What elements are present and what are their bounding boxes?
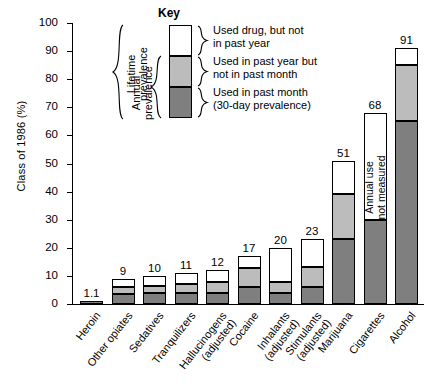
segment-past-month (143, 293, 166, 304)
segment-not-past-year (301, 239, 324, 267)
segment-past-month (112, 294, 135, 304)
x-label-line1: Alcohol (386, 309, 418, 345)
y-axis-title: Class of 1986 (%) (15, 81, 27, 211)
segment-past-year-not-month (395, 65, 418, 121)
segment-past-year-not-month (206, 282, 229, 293)
bar-tranquilizers: 11 (175, 273, 198, 304)
bar-stimulants: 23 (301, 239, 324, 304)
segment-not-past-year (206, 270, 229, 281)
y-tick-20: 20 (67, 248, 72, 249)
y-tick-50: 50 (67, 164, 72, 165)
segment-past-month (269, 293, 292, 304)
y-tick-label: 70 (32, 100, 58, 112)
segment-not-past-year (112, 279, 135, 288)
y-tick-90: 90 (67, 51, 72, 52)
bar-value-label: 10 (148, 262, 161, 274)
bar-value-label: 12 (211, 256, 224, 268)
segment-not-past-year (332, 161, 355, 195)
y-tick-label: 60 (32, 128, 58, 140)
segment-not-past-year (175, 273, 198, 284)
y-tick-label: 0 (32, 297, 58, 309)
segment-past-year-not-month (238, 268, 261, 287)
bar-value-label: 1.1 (84, 287, 100, 299)
segment-not-past-year (395, 48, 418, 65)
plot-area: 100 90 80 70 60 50 40 30 20 10 0 1.1 9 1… (72, 23, 424, 304)
bar-alcohol: 91 (395, 48, 418, 304)
segment-past-month (175, 293, 198, 304)
y-tick-label: 30 (32, 213, 58, 225)
y-tick-label: 10 (32, 269, 58, 281)
y-tick-30: 30 (67, 220, 72, 221)
bar-value-label: 23 (306, 225, 319, 237)
segment-past-year-not-month (332, 194, 355, 239)
y-tick-label: 40 (32, 185, 58, 197)
x-axis-line (72, 304, 424, 305)
y-tick-label: 80 (32, 72, 58, 84)
key-title: Key (158, 6, 180, 20)
bar-cigarettes: Annual use not measured 68 (364, 113, 387, 304)
segment-not-past-year (364, 113, 387, 220)
segment-not-past-year (269, 248, 292, 282)
y-tick-label: 50 (32, 157, 58, 169)
bar-value-label: 20 (274, 234, 287, 246)
bar-value-label: 51 (337, 147, 350, 159)
segment-past-year-not-month (175, 284, 198, 292)
segment-past-year-not-month (269, 282, 292, 293)
bar-inhalants: 20 (269, 248, 292, 304)
segment-past-month (206, 293, 229, 304)
segment-past-month (238, 287, 261, 304)
segment-past-year-not-month (112, 287, 135, 294)
bar-value-label: 91 (400, 34, 413, 46)
y-tick-label: 20 (32, 241, 58, 253)
x-label-heroin: Heroin (74, 310, 103, 343)
segment-not-past-year (143, 276, 166, 286)
x-label-line1: Heroin (73, 309, 102, 342)
y-tick-label: 90 (32, 44, 58, 56)
bar-cocaine: 17 (238, 256, 261, 304)
segment-past-month (395, 121, 418, 304)
segment-not-past-year (238, 256, 261, 267)
segment-past-month (80, 301, 103, 304)
y-tick-80: 80 (67, 79, 72, 80)
segment-past-month (364, 220, 387, 304)
y-tick-label: 100 (32, 16, 58, 28)
y-tick-60: 60 (67, 135, 72, 136)
bar-sedatives: 10 (143, 276, 166, 304)
y-tick-40: 40 (67, 192, 72, 193)
bar-value-label: 17 (243, 242, 256, 254)
bar-other-opiates: 9 (112, 279, 135, 304)
bar-marijuana: 51 (332, 161, 355, 304)
segment-past-year-not-month (143, 286, 166, 293)
y-tick-100: 100 (67, 23, 72, 24)
segment-past-month (332, 239, 355, 304)
bar-value-label: 11 (180, 259, 192, 271)
segment-past-year-not-month (301, 267, 324, 287)
stacked-bar-chart: Class of 1986 (%) Key Used drug, but not… (0, 0, 431, 386)
y-tick-0: 0 (67, 304, 72, 305)
bar-heroin: 1.1 (80, 301, 103, 304)
bar-value-label: 9 (120, 265, 126, 277)
segment-past-month (301, 287, 324, 304)
y-tick-10: 10 (67, 276, 72, 277)
y-axis-line (72, 23, 73, 305)
bar-hallucinogens: 12 (206, 270, 229, 304)
x-label-alcohol: Alcohol (387, 310, 418, 346)
bar-value-label: 68 (369, 99, 382, 111)
y-tick-70: 70 (67, 107, 72, 108)
